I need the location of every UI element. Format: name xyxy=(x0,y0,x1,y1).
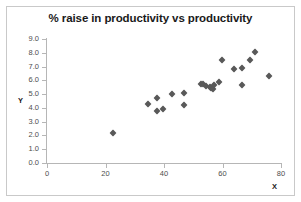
data-point-marker xyxy=(169,91,176,98)
plot-area xyxy=(47,39,281,163)
x-tick-label: 20 xyxy=(94,170,118,178)
y-tick-mark xyxy=(42,149,46,150)
y-axis-label: Y xyxy=(18,96,23,105)
y-tick-label: 2.0 xyxy=(29,131,39,139)
y-tick-mark xyxy=(42,122,46,123)
x-tick-label: 60 xyxy=(211,170,235,178)
x-tick-label: 80 xyxy=(269,170,293,178)
y-tick-mark xyxy=(42,94,46,95)
data-point-marker xyxy=(246,56,253,63)
y-tick-mark xyxy=(42,135,46,136)
data-point-marker xyxy=(181,89,188,96)
data-point-marker xyxy=(219,56,226,63)
y-tick-label: 9.0 xyxy=(29,35,39,43)
x-axis-label: X xyxy=(272,182,277,191)
data-point-marker xyxy=(230,66,237,73)
chart-container: % raise in productivity vs productivity … xyxy=(0,0,301,202)
x-tick-mark xyxy=(223,164,224,168)
data-point-marker xyxy=(266,73,273,80)
x-tick-mark xyxy=(47,164,48,168)
y-tick-label: 0.0 xyxy=(29,159,39,167)
x-tick-label: 0 xyxy=(35,170,59,178)
chart-title: % raise in productivity vs productivity xyxy=(0,12,301,24)
data-point-marker xyxy=(239,82,246,89)
data-point-marker xyxy=(181,102,188,109)
x-tick-mark xyxy=(281,164,282,168)
data-point-marker xyxy=(251,49,258,56)
x-tick-mark xyxy=(164,164,165,168)
data-point-marker xyxy=(160,105,167,112)
data-point-marker xyxy=(110,129,117,136)
y-tick-mark xyxy=(42,53,46,54)
y-tick-label: 4.0 xyxy=(29,104,39,112)
data-point-marker xyxy=(238,64,245,71)
data-point-marker xyxy=(145,100,152,107)
y-tick-label: 6.0 xyxy=(29,76,39,84)
y-tick-label: 7.0 xyxy=(29,63,39,71)
y-tick-label: 5.0 xyxy=(29,90,39,98)
y-tick-label: 8.0 xyxy=(29,49,39,57)
y-tick-mark xyxy=(42,163,46,164)
y-tick-mark xyxy=(42,80,46,81)
y-tick-label: 3.0 xyxy=(29,118,39,126)
y-tick-mark xyxy=(42,108,46,109)
y-tick-mark xyxy=(42,67,46,68)
x-tick-label: 40 xyxy=(152,170,176,178)
x-tick-mark xyxy=(106,164,107,168)
y-tick-mark xyxy=(42,39,46,40)
data-point-marker xyxy=(154,95,161,102)
y-tick-label: 1.0 xyxy=(29,145,39,153)
